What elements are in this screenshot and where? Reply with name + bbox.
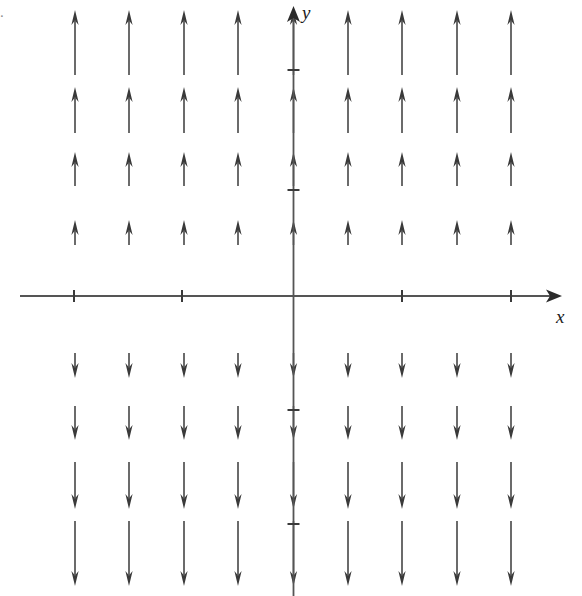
- field-arrow: [453, 521, 460, 586]
- vector-field-canvas: [0, 0, 582, 596]
- field-arrow: [234, 152, 241, 186]
- field-arrow: [234, 220, 241, 245]
- axes-group: [20, 6, 562, 596]
- field-arrow: [180, 462, 187, 509]
- field-arrow: [234, 462, 241, 509]
- field-arrow: [71, 353, 78, 378]
- field-arrow: [180, 406, 187, 440]
- field-arrow: [344, 462, 351, 509]
- field-arrow: [398, 87, 405, 133]
- field-arrow: [180, 87, 187, 133]
- field-arrow: [453, 87, 460, 133]
- field-arrow: [125, 353, 132, 378]
- field-arrow: [398, 220, 405, 245]
- field-arrow: [398, 521, 405, 586]
- field-arrow: [71, 462, 78, 509]
- field-arrow: [71, 220, 78, 245]
- field-arrow: [344, 220, 351, 245]
- field-arrow: [507, 462, 514, 509]
- field-arrow: [507, 353, 514, 378]
- field-arrow: [507, 152, 514, 186]
- field-arrow: [71, 10, 78, 75]
- y-axis-label: y: [302, 2, 310, 24]
- field-arrow: [234, 521, 241, 586]
- field-arrow: [180, 353, 187, 378]
- field-arrow: [398, 406, 405, 440]
- field-arrow: [453, 406, 460, 440]
- field-arrow: [234, 353, 241, 378]
- vector-field-figure: . y x: [0, 0, 582, 596]
- field-arrow: [125, 521, 132, 586]
- field-arrow: [507, 220, 514, 245]
- field-arrow: [234, 10, 241, 75]
- field-arrow: [344, 10, 351, 75]
- field-arrow: [180, 220, 187, 245]
- field-arrow: [344, 353, 351, 378]
- field-arrow: [125, 462, 132, 509]
- field-arrow: [71, 152, 78, 186]
- field-arrow: [125, 87, 132, 133]
- field-arrow: [125, 406, 132, 440]
- field-arrow: [398, 10, 405, 75]
- field-arrow: [125, 152, 132, 186]
- field-arrow: [71, 87, 78, 133]
- x-axis-label: x: [556, 306, 564, 328]
- field-arrow: [180, 10, 187, 75]
- field-arrow: [344, 152, 351, 186]
- field-arrow: [453, 152, 460, 186]
- field-arrow: [344, 406, 351, 440]
- field-arrow: [507, 521, 514, 586]
- field-arrow: [507, 406, 514, 440]
- field-arrow: [507, 87, 514, 133]
- field-arrow: [398, 353, 405, 378]
- field-arrow: [507, 10, 514, 75]
- field-arrow: [71, 521, 78, 586]
- field-arrow: [125, 220, 132, 245]
- field-arrow: [180, 521, 187, 586]
- field-arrow: [180, 152, 187, 186]
- field-arrow: [453, 220, 460, 245]
- field-arrow: [234, 87, 241, 133]
- field-arrow: [398, 462, 405, 509]
- field-arrow: [344, 87, 351, 133]
- field-arrow: [453, 10, 460, 75]
- field-arrow: [344, 521, 351, 586]
- field-arrow: [234, 406, 241, 440]
- field-arrow: [453, 462, 460, 509]
- field-arrow: [398, 152, 405, 186]
- field-arrow: [453, 353, 460, 378]
- field-arrow: [71, 406, 78, 440]
- field-arrow: [125, 10, 132, 75]
